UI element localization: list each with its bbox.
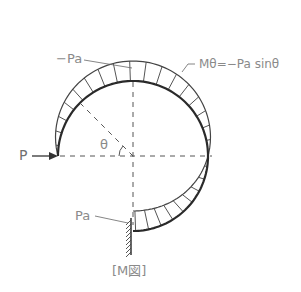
angle-arc [119, 146, 123, 156]
bending-moment-diagram [0, 0, 301, 292]
load-label: P [19, 148, 27, 162]
moment-formula-label: Mθ=−Pa sinθ [199, 58, 279, 70]
figure-caption: [M図] [112, 264, 146, 277]
moment-envelope-lower [133, 156, 208, 211]
load-arrow-head [49, 152, 58, 160]
leader-bottom-moment [95, 216, 128, 223]
angle-label: θ [100, 138, 108, 151]
bottom-moment-label: Pa [75, 209, 90, 222]
top-moment-label: −Pa [56, 52, 82, 65]
leader-formula [182, 64, 195, 72]
moment-envelope-upper [56, 61, 211, 156]
